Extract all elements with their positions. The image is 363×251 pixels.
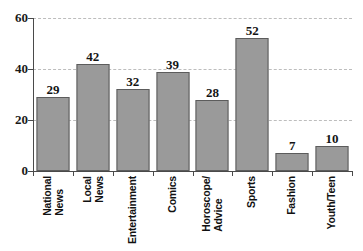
bar-value-label: 42 [86, 50, 99, 63]
y-axis-tick-mark [28, 69, 33, 70]
bar-value-label: 52 [246, 24, 259, 37]
bar-value-label: 28 [206, 86, 219, 99]
bar-slot: 29 [33, 18, 73, 171]
x-axis-tick-mark [352, 171, 353, 176]
x-axis-category-line: National [41, 176, 53, 216]
x-axis-category-line: Comics [167, 176, 179, 213]
bar-chart: 0204060 294232392852710 NationalNewsLoca… [0, 0, 363, 251]
x-axis-tick-mark [33, 171, 34, 176]
x-axis-category-line: Local [81, 176, 93, 203]
bar[interactable]: 32 [116, 89, 149, 171]
x-axis-category-line: Entertainment [127, 176, 139, 244]
y-axis-tick-mark [28, 18, 33, 19]
bar-slot: 7 [272, 18, 312, 171]
bar-slot: 39 [153, 18, 193, 171]
bar[interactable]: 52 [236, 38, 269, 171]
bar-value-label: 32 [126, 75, 139, 88]
x-axis-category-line: Sports [247, 176, 259, 208]
y-axis-tick-mark [28, 171, 33, 172]
bar[interactable]: 42 [76, 64, 109, 171]
x-axis-tick-mark [193, 171, 194, 176]
bar-slot: 10 [312, 18, 352, 171]
bar-slot: 28 [193, 18, 233, 171]
x-axis-tick-mark [153, 171, 154, 176]
x-axis-tick-mark [272, 171, 273, 176]
y-axis-tick-label: 40 [15, 61, 28, 77]
bar[interactable]: 7 [276, 153, 309, 171]
bar-value-label: 29 [46, 83, 59, 96]
bar-slot: 52 [232, 18, 272, 171]
bar[interactable]: 29 [36, 97, 69, 171]
x-axis-tick-mark [232, 171, 233, 176]
y-axis-tick-label: 60 [15, 10, 28, 26]
x-axis-tick-mark [113, 171, 114, 176]
x-axis-tick-mark [73, 171, 74, 176]
y-axis-tick-label: 20 [15, 112, 28, 128]
x-axis-category-line: Fashion [286, 176, 298, 215]
bar-value-label: 10 [326, 132, 339, 145]
bar[interactable]: 10 [316, 146, 349, 172]
x-axis-category-line: News [53, 176, 65, 216]
bar[interactable]: 39 [156, 72, 189, 171]
x-axis-tick-mark [312, 171, 313, 176]
bar-value-label: 7 [289, 139, 296, 152]
bar-slot: 42 [73, 18, 113, 171]
bar-slot: 32 [113, 18, 153, 171]
bar-value-label: 39 [166, 58, 179, 71]
x-axis-category-line: News [93, 176, 105, 203]
y-axis-tick-mark [28, 120, 33, 121]
x-axis-category-line: Youth/Teen [326, 176, 338, 230]
x-axis-category-line: Advice [212, 176, 224, 232]
bar[interactable]: 28 [196, 100, 229, 171]
bars-layer: 294232392852710 [33, 18, 352, 171]
